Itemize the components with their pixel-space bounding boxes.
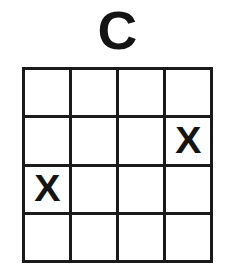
- grid-cell-r1c1[interactable]: [25, 70, 69, 115]
- grid-cell-r1c2[interactable]: [72, 70, 116, 115]
- grid-cell-r4c3[interactable]: [119, 215, 163, 260]
- grid-cell-r2c1[interactable]: [25, 118, 69, 163]
- grid-cell-r3c2[interactable]: [72, 167, 116, 212]
- grid-cell-r4c1[interactable]: [25, 215, 69, 260]
- grid-cell-r2c3[interactable]: [119, 118, 163, 163]
- grid-cell-r3c1[interactable]: X: [25, 167, 69, 212]
- grid-cell-r2c2[interactable]: [72, 118, 116, 163]
- cell-mark: X: [34, 170, 60, 207]
- grid-cell-r3c4[interactable]: [166, 167, 210, 212]
- cell-mark: X: [175, 122, 201, 159]
- puzzle-grid: X X: [22, 67, 213, 263]
- grid-cell-r3c3[interactable]: [119, 167, 163, 212]
- grid-cell-r1c4[interactable]: [166, 70, 210, 115]
- grid-cell-r4c4[interactable]: [166, 215, 210, 260]
- grid-cell-r4c2[interactable]: [72, 215, 116, 260]
- puzzle-title-letter: C: [97, 2, 137, 58]
- page-title: C: [0, 2, 234, 58]
- grid-cell-r2c4[interactable]: X: [166, 118, 210, 163]
- grid-cell-r1c3[interactable]: [119, 70, 163, 115]
- puzzle-figure: C X X: [0, 0, 234, 272]
